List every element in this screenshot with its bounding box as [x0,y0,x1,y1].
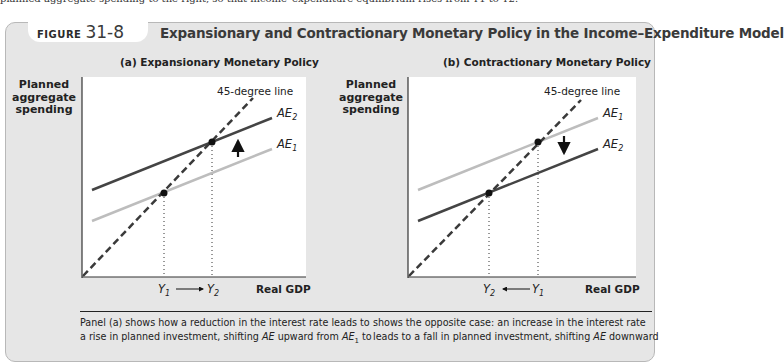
caption-right: shows the opposite case: an increase in … [373,316,659,343]
y1-label: Y1 [158,282,170,298]
caption-line: Panel (a) shows how a reduction in the i… [80,316,372,330]
equilibrium-point-1 [535,139,542,146]
plot-area [408,77,636,277]
equilibrium-point-2 [209,139,216,146]
panel-a-chart [82,77,306,289]
line45-label: 45-degree line [217,85,293,97]
caption-line: leads to a fall in planned investment, s… [373,330,659,344]
equilibrium-point-2 [486,190,493,197]
caption-divider [80,311,652,312]
x-axis-label: Real GDP [256,283,311,295]
caption-line: a rise in planned investment, shifting A… [80,330,372,348]
panel-b-chart [408,77,636,289]
line45-label: 45-degree line [544,85,620,97]
equilibrium-point-1 [161,190,168,197]
x-axis-label: Real GDP [585,283,640,295]
y2-label: Y2 [207,282,219,298]
plot-area [82,77,306,277]
caption-left: Panel (a) shows how a reduction in the i… [80,316,372,348]
y1-label: Y1 [532,282,544,298]
caption-line: shows the opposite case: an increase in … [373,316,659,330]
y2-label: Y2 [483,282,495,298]
